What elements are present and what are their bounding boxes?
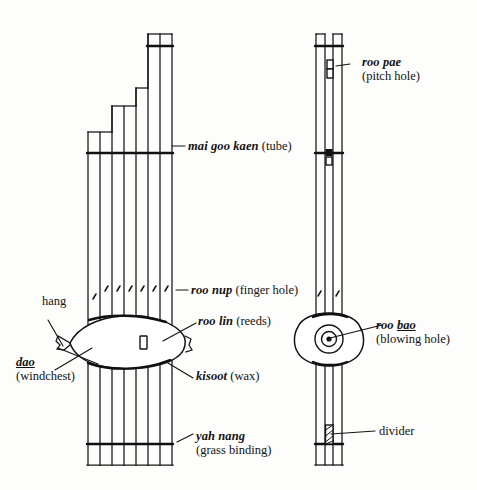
label-roo-nup: roo nup (finger hole) xyxy=(191,283,298,297)
leader-hang xyxy=(48,320,63,346)
label-kisoot-thai: kisoot xyxy=(196,369,227,383)
label-roo-pae-thai: roo pae xyxy=(362,55,401,69)
side-view-tube-edges xyxy=(316,34,342,465)
label-mai-goo-kaen-thai: mai goo kaen xyxy=(188,139,259,153)
front-view xyxy=(56,34,192,465)
side-view-finger-holes xyxy=(318,291,339,296)
label-roo-lin-gloss: (reeds) xyxy=(236,314,271,328)
side-view xyxy=(294,34,363,465)
side-view-upper-binding xyxy=(315,149,343,165)
leader-yah-nang xyxy=(177,434,193,442)
label-yah-nang: yah nang (grass binding) xyxy=(196,429,271,457)
leader-roo-pae xyxy=(336,64,350,66)
label-roo-bao-thai-pre: roo xyxy=(376,318,397,332)
label-roo-pae: roo pae (pitch hole) xyxy=(362,55,420,83)
label-roo-lin: roo lin (reeds) xyxy=(198,314,271,328)
label-hang-text: hang xyxy=(42,294,66,308)
label-kisoot: kisoot (wax) xyxy=(196,369,259,383)
leader-divider xyxy=(331,431,375,434)
label-kisoot-gloss: (wax) xyxy=(230,369,259,383)
label-dao: dao (windchest) xyxy=(16,355,75,383)
front-view-windchest-lip xyxy=(185,336,192,352)
side-view-blowing-hole xyxy=(294,313,363,366)
label-yah-nang-gloss: (grass binding) xyxy=(196,443,271,457)
leader-lines xyxy=(48,64,382,442)
label-dao-thai: dao xyxy=(16,355,35,369)
front-view-tube-edges xyxy=(88,34,172,465)
label-roo-nup-gloss: (finger hole) xyxy=(235,283,298,297)
label-divider: divider xyxy=(379,424,414,438)
label-hang: hang xyxy=(42,294,66,308)
side-view-divider xyxy=(315,425,343,465)
label-dao-gloss: (windchest) xyxy=(16,369,75,383)
label-roo-lin-thai: roo lin xyxy=(198,314,233,328)
label-roo-bao: roo bao (blowing hole) xyxy=(376,318,450,346)
front-view-reed-slot xyxy=(140,336,147,349)
label-roo-bao-thai-underlined: bao xyxy=(397,318,416,332)
label-roo-bao-gloss: (blowing hole) xyxy=(376,332,450,346)
label-mai-goo-kaen: mai goo kaen (tube) xyxy=(188,139,292,153)
label-yah-nang-thai: yah nang xyxy=(196,429,245,443)
label-mai-goo-kaen-gloss: (tube) xyxy=(262,139,292,153)
label-divider-text: divider xyxy=(379,424,414,438)
label-roo-bao-thai: roo bao xyxy=(376,318,416,332)
khaen-diagram: mai goo kaen (tube) roo nup (finger hole… xyxy=(0,0,477,490)
label-roo-nup-thai: roo nup xyxy=(191,283,232,297)
side-view-hole-center xyxy=(326,336,331,341)
label-roo-pae-gloss: (pitch hole) xyxy=(362,69,420,83)
side-view-pitch-hole xyxy=(327,60,333,78)
front-view-finger-holes xyxy=(93,286,168,299)
